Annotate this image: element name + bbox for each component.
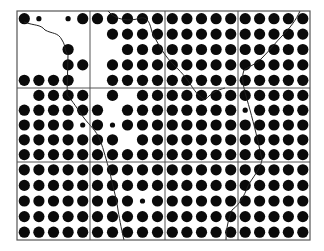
dot-large <box>225 164 236 175</box>
dot-large <box>268 134 279 145</box>
dot-large <box>211 105 222 116</box>
dot-large <box>181 59 192 70</box>
dot-large <box>297 149 308 160</box>
dot-large <box>107 28 118 39</box>
dot-large <box>137 164 148 175</box>
dot-large <box>19 75 30 86</box>
dot-large <box>211 119 222 130</box>
dot-large <box>225 13 236 24</box>
dot-large <box>48 75 59 86</box>
dot-large <box>181 28 192 39</box>
dot-large <box>297 28 308 39</box>
dot-large <box>63 211 74 222</box>
dot-large <box>181 149 192 160</box>
dot-large <box>19 134 30 145</box>
boundary-line <box>24 22 124 240</box>
dot-large <box>268 90 279 101</box>
dot-large <box>181 13 192 24</box>
dot-large <box>167 105 178 116</box>
dot-large <box>254 90 265 101</box>
dot-large <box>152 164 163 175</box>
dot-large <box>211 195 222 206</box>
dot-large <box>167 119 178 130</box>
dot-large <box>63 105 74 116</box>
dot-large <box>196 134 207 145</box>
dot-large <box>137 211 148 222</box>
dot-large <box>196 149 207 160</box>
dot-large <box>181 105 192 116</box>
dot-large <box>122 195 133 206</box>
dot-large <box>48 195 59 206</box>
dot-large <box>283 134 294 145</box>
dot-large <box>283 13 294 24</box>
dot-large <box>19 195 30 206</box>
dot-large <box>297 180 308 191</box>
dot-large <box>196 180 207 191</box>
dot-large <box>196 28 207 39</box>
dot-large <box>137 44 148 55</box>
dot-large <box>211 59 222 70</box>
dot-small <box>80 122 85 127</box>
dot-large <box>225 28 236 39</box>
dot-large <box>225 105 236 116</box>
dot-large <box>240 44 251 55</box>
dot-large <box>211 134 222 145</box>
dot-large <box>225 59 236 70</box>
dot-large <box>297 44 308 55</box>
dot-large <box>268 13 279 24</box>
dot-large <box>122 44 133 55</box>
dot-large <box>137 149 148 160</box>
dot-large <box>167 13 178 24</box>
dot-large <box>225 195 236 206</box>
dot-large <box>297 227 308 238</box>
dot-large <box>122 28 133 39</box>
dot-large <box>48 227 59 238</box>
dot-large <box>196 211 207 222</box>
dot-large <box>63 90 74 101</box>
dot-large <box>196 13 207 24</box>
dot-large <box>268 164 279 175</box>
dot-large <box>225 44 236 55</box>
dot-small <box>110 122 115 127</box>
dot-small <box>66 16 71 21</box>
dot-large <box>283 195 294 206</box>
dot-large <box>19 164 30 175</box>
dot-large <box>92 195 103 206</box>
dot-large <box>122 105 133 116</box>
dot-large <box>122 211 133 222</box>
dot-large <box>181 90 192 101</box>
dot-large <box>33 195 44 206</box>
dot-large <box>181 134 192 145</box>
dot-large <box>254 28 265 39</box>
dot-large <box>152 13 163 24</box>
dot-large <box>167 59 178 70</box>
dot-large <box>48 105 59 116</box>
dot-large <box>107 75 118 86</box>
dot-large <box>137 90 148 101</box>
dot-large <box>152 180 163 191</box>
dot-large <box>254 75 265 86</box>
dot-large <box>211 180 222 191</box>
dot-large <box>77 211 88 222</box>
dot-large <box>107 90 118 101</box>
dot-large <box>268 59 279 70</box>
dot-large <box>225 119 236 130</box>
dot-large <box>63 134 74 145</box>
dot-map-diagram <box>0 0 324 251</box>
dot-large <box>63 180 74 191</box>
dot-large <box>297 119 308 130</box>
dot-large <box>152 195 163 206</box>
dot-large <box>152 75 163 86</box>
dot-large <box>268 211 279 222</box>
dot-large <box>297 134 308 145</box>
dot-large <box>268 195 279 206</box>
dot-large <box>297 90 308 101</box>
dot-large <box>240 164 251 175</box>
dot-large <box>167 90 178 101</box>
dot-large <box>63 195 74 206</box>
dot-large <box>240 134 251 145</box>
dot-large <box>240 75 251 86</box>
dot-large <box>77 134 88 145</box>
dot-small <box>36 16 41 21</box>
dot-large <box>240 227 251 238</box>
